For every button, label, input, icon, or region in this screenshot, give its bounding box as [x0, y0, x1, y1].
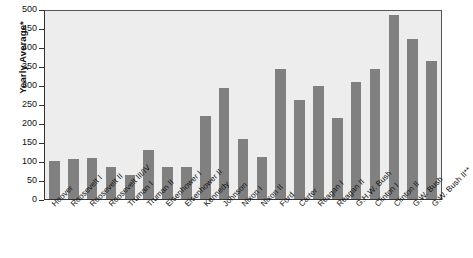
bar-slot [271, 11, 290, 199]
bar-slot [422, 11, 441, 199]
bar [407, 39, 418, 199]
x-axis-labels: HooverRoosevelt IRoosevelt IIRoosevelt I… [44, 200, 442, 258]
bar-slot [403, 11, 422, 199]
bar [275, 69, 286, 199]
y-tick-label: 0 [32, 194, 37, 204]
y-tick-label: 50 [27, 175, 37, 185]
y-tick-label: 250 [22, 99, 37, 109]
y-axis-ticks: 050100150200250300350400450500 [0, 10, 44, 200]
y-tick-label: 350 [22, 61, 37, 71]
y-tick-label: 450 [22, 23, 37, 33]
bar [294, 100, 305, 199]
y-tick-label: 300 [22, 80, 37, 90]
bar-series [45, 11, 441, 199]
bar [313, 86, 324, 199]
bar-slot [234, 11, 253, 199]
bar-slot [64, 11, 83, 199]
y-tick-label: 200 [22, 118, 37, 128]
bar-slot [158, 11, 177, 199]
y-tick-label: 400 [22, 42, 37, 52]
bar-slot [290, 11, 309, 199]
bar-slot [328, 11, 347, 199]
bar-slot [177, 11, 196, 199]
plot-area [44, 10, 442, 200]
bar-slot [252, 11, 271, 199]
y-tick-label: 500 [22, 4, 37, 14]
y-tick-label: 150 [22, 137, 37, 147]
bar-slot [309, 11, 328, 199]
bar-slot [347, 11, 366, 199]
bar-slot [366, 11, 385, 199]
bar-slot [83, 11, 102, 199]
y-tick-label: 100 [22, 156, 37, 166]
bar-slot [45, 11, 64, 199]
